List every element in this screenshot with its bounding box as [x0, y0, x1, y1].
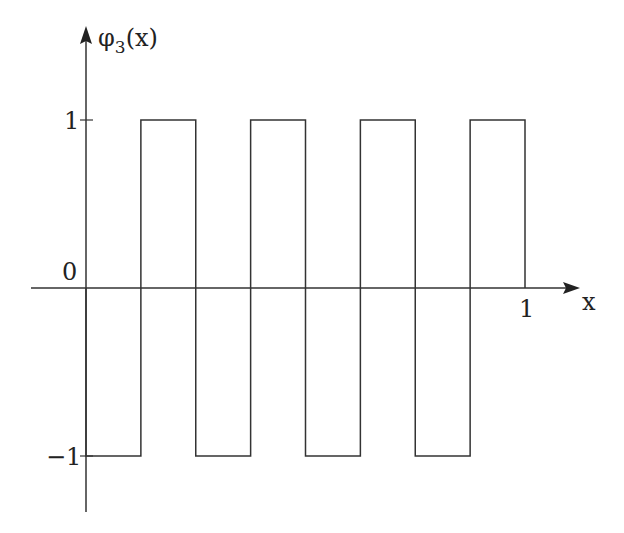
y-axis-label: φ3(x): [98, 24, 158, 57]
y-tick-label-minus1: −1: [46, 443, 81, 471]
x-tick-label-1: 1: [519, 295, 534, 323]
x-axis-label: x: [582, 288, 596, 316]
origin-label: 0: [62, 258, 77, 286]
chart: φ3(x) x 0 1 1 −1: [0, 0, 624, 533]
y-tick-label-1: 1: [64, 107, 79, 135]
